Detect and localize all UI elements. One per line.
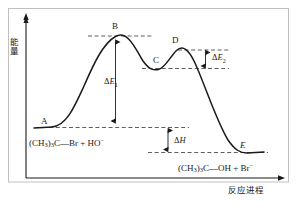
reactants-plus: + bbox=[78, 138, 88, 148]
point-label-b: B bbox=[112, 22, 118, 31]
products-formula: (CH3)3C—OH + Br− bbox=[178, 163, 253, 174]
reactants-partner: HO bbox=[88, 138, 101, 148]
y-axis-label: 能量 bbox=[8, 38, 17, 56]
products-partner: Br bbox=[241, 163, 250, 173]
reactants-bond: — bbox=[60, 138, 69, 148]
energy-curve bbox=[34, 35, 264, 153]
delta-e1-label: ΔE1 bbox=[104, 77, 118, 88]
point-label-d: D bbox=[172, 36, 179, 45]
products-charge: − bbox=[250, 162, 254, 169]
reactants-formula: (CH3)3C—Br + HO− bbox=[29, 138, 104, 149]
delta-h-label: ΔH bbox=[174, 136, 186, 145]
reactants-group: Br bbox=[69, 138, 78, 148]
x-axis-label: 反应进程 bbox=[228, 186, 264, 195]
products-group: OH bbox=[218, 163, 231, 173]
diagram-canvas bbox=[0, 0, 297, 205]
point-label-a: A bbox=[41, 117, 48, 126]
point-label-c: C bbox=[153, 56, 159, 65]
energy-profile-figure: 能量 反应进程 A B C D E ΔE1 ΔE2 ΔH (CH3)3C—Br … bbox=[0, 0, 297, 205]
products-plus: + bbox=[231, 163, 241, 173]
reactants-prefix: (CH bbox=[29, 138, 45, 148]
products-bond: — bbox=[209, 163, 218, 173]
delta-e1-sub: 1 bbox=[115, 82, 118, 88]
figure-frame bbox=[9, 9, 289, 183]
point-label-e: E bbox=[240, 141, 246, 150]
reactants-charge: − bbox=[101, 137, 105, 144]
delta-e2-sub: 2 bbox=[223, 58, 226, 64]
y-axis-arrowhead bbox=[23, 13, 28, 20]
products-prefix: (CH bbox=[178, 163, 194, 173]
delta-e2-label: ΔE2 bbox=[212, 53, 226, 64]
x-axis-arrowhead bbox=[278, 175, 285, 180]
delta-h-var: H bbox=[179, 135, 185, 145]
